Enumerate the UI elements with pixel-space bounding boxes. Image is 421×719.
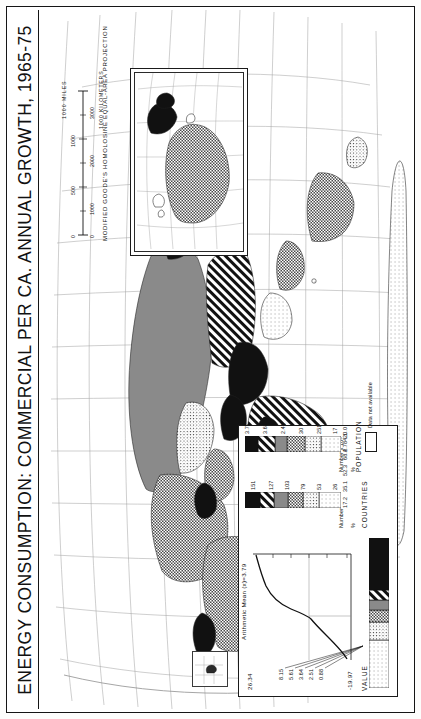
population-seg-3 (287, 436, 305, 452)
scale-tick-bottom-1: 1000 (89, 203, 95, 215)
countries-seg-1 (319, 492, 341, 508)
europe-inset-svg (135, 72, 244, 251)
legend-population-count-5: 3.62 (263, 423, 268, 434)
legend-population-count-2: 251 (317, 425, 322, 434)
countries-seg-5 (260, 492, 274, 508)
population-seg-4 (275, 436, 287, 452)
legend-break-5: 0.88 (319, 669, 324, 680)
legend-population-pct-1: 4.7 (343, 444, 348, 452)
population-seg-1 (321, 436, 341, 452)
legend-countries-count-2: 53 (317, 484, 322, 490)
legend-swatch-class-3 (369, 610, 389, 622)
scale-tick-bottom-2: 2000 (89, 155, 95, 167)
legend-countries-pct-2: 35.1 (343, 481, 348, 492)
legend-swatch-class-2 (369, 622, 389, 640)
scale-tick-bottom-0: 0 (89, 235, 95, 238)
countries-seg-4 (274, 492, 288, 508)
legend-population-count-1: 17 (333, 428, 338, 434)
legend-value-min: -19.97 (347, 671, 353, 690)
countries-seg-3 (288, 492, 303, 508)
legend-break-2: 5.61 (289, 669, 294, 680)
legend-swatch-class-6 (369, 538, 389, 590)
population-seg-6 (245, 436, 258, 452)
page-title: ENERGY CONSUMPTION: COMMERCIAL PER CA. A… (15, 25, 36, 694)
europe-inset-box[interactable] (130, 68, 248, 256)
small-inset-landmass (206, 665, 216, 673)
scale-unit-miles: 1000 MILES (61, 80, 67, 119)
legend-population-count-3: 30 (299, 428, 304, 434)
legend-break-4: 2.51 (309, 669, 314, 680)
legend-mean-label: Arithmetic Mean (x)=3.79 (241, 564, 247, 641)
legend-population-pct-2: 20.0 (343, 427, 348, 438)
population-seg-5 (258, 436, 275, 452)
legend-countries-count-4: 103 (285, 481, 290, 490)
legend-no-data-swatch (365, 432, 377, 452)
legend-countries-count-5: 127 (269, 481, 274, 490)
legend-population-count-4: 2.41 (281, 423, 286, 434)
legend-countries-count-6: 151 (251, 481, 256, 490)
legend-population-count-6: 3.77 (245, 423, 250, 434)
legend-population-bar-svg (245, 436, 341, 452)
inset-great-britain (153, 194, 164, 207)
legend-swatch-class-4 (369, 600, 389, 610)
legend-swatch-class-5 (369, 590, 389, 600)
island-group-b (312, 279, 316, 283)
inset-ireland (158, 210, 164, 217)
legend-countries-group-label: COUNTRIES (361, 480, 368, 528)
map-page: ENERGY CONSUMPTION: COMMERCIAL PER CA. A… (0, 0, 421, 719)
europe-inset-frame (134, 72, 244, 252)
countries-seg-6 (245, 492, 260, 508)
legend-countries-pct-1: 17.2 (343, 497, 348, 508)
legend-countries-block: COUNTRIES (245, 506, 389, 528)
legend-break-1: 8.15 (279, 669, 284, 680)
legend-countries-bar-svg (245, 492, 341, 508)
inset-small-country (186, 114, 195, 123)
legend-value-swatch-svg (369, 538, 389, 688)
title-divider (38, 10, 39, 709)
legend-break-3: 3.64 (299, 669, 304, 680)
legend-value-max: 26.34 (247, 673, 253, 690)
legend-countries-count-3: 79 (301, 484, 306, 490)
legend-countries-number-label: Number (339, 508, 344, 528)
small-inset-svg (193, 654, 225, 686)
map-legend: VALUE (238, 425, 398, 697)
scale-tick-bottom-3: 3000 (89, 107, 95, 119)
legend-swatch-class-1 (369, 640, 389, 688)
legend-countries-pct-label: % (351, 523, 356, 528)
title-strip: ENERGY CONSUMPTION: COMMERCIAL PER CA. A… (8, 8, 42, 711)
scale-tick-top-2: 1000 (70, 135, 76, 147)
legend-no-data-label: Data not available (368, 382, 373, 428)
legend-leader-lines (283, 644, 367, 670)
countries-seg-2 (303, 492, 319, 508)
small-inset-box[interactable] (192, 651, 228, 687)
scale-tick-top-0: 0 (70, 235, 76, 238)
projection-note: MODIFIED GOODE'S HOMOLOSINE EQUAL-AREA P… (102, 31, 108, 241)
population-seg-2 (305, 436, 321, 452)
map-scene-rotator: 0 500 1000 1000 MILES 0 1000 2000 3000 1… (42, 8, 413, 711)
legend-countries-count-1: 26 (333, 484, 338, 490)
legend-population-bar (245, 436, 341, 452)
map-scene: 0 500 1000 1000 MILES 0 1000 2000 3000 1… (42, 8, 413, 711)
legend-population-group-label: POPULATION (355, 420, 362, 472)
map-viewport[interactable]: 0 500 1000 1000 MILES 0 1000 2000 3000 1… (42, 8, 413, 711)
legend-population-pct-label: % (351, 467, 356, 472)
legend-value-swatch-bar (369, 538, 389, 688)
scale-tick-top-1: 500 (70, 186, 76, 195)
legend-countries-bar (245, 492, 341, 508)
